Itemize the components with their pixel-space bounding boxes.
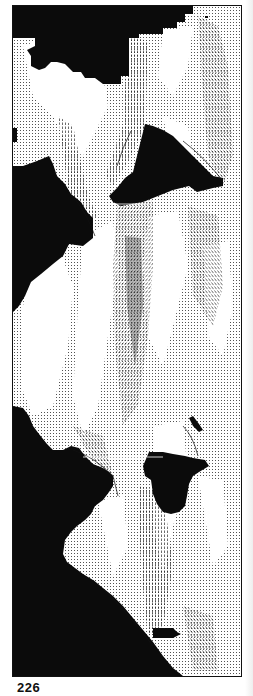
page-edge-shadow: [245, 0, 253, 696]
vector-field-plot: [13, 6, 241, 676]
vector-field-figure: [12, 5, 242, 677]
page-number: 226: [17, 680, 40, 695]
